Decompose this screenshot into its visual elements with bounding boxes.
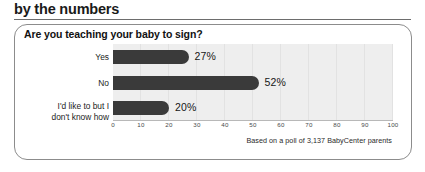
bar-value-label: 52% bbox=[265, 76, 286, 88]
x-tick-label: 20 bbox=[165, 121, 172, 128]
x-tick-label: 70 bbox=[305, 121, 312, 128]
x-tick-label: 10 bbox=[137, 121, 144, 128]
bar bbox=[113, 50, 189, 64]
bar-chart: 0102030405060708090100 Yes27%No52%I'd li… bbox=[0, 0, 425, 172]
x-tick-label: 30 bbox=[193, 121, 200, 128]
gridline bbox=[364, 44, 365, 120]
category-label: Yes bbox=[9, 52, 109, 63]
bar-value-label: 20% bbox=[175, 101, 196, 113]
x-tick-label: 60 bbox=[277, 121, 284, 128]
category-label: No bbox=[9, 78, 109, 89]
x-tick-label: 80 bbox=[333, 121, 340, 128]
infographic-page: by the numbers Are you teaching your bab… bbox=[0, 0, 425, 172]
x-tick-label: 50 bbox=[249, 121, 256, 128]
bar bbox=[113, 101, 169, 115]
x-tick-label: 90 bbox=[361, 121, 368, 128]
gridline bbox=[392, 44, 393, 120]
x-tick-label: 0 bbox=[111, 121, 115, 128]
x-tick-label: 40 bbox=[221, 121, 228, 128]
bar-value-label: 27% bbox=[195, 50, 216, 62]
x-tick-label: 100 bbox=[388, 121, 399, 128]
bar bbox=[113, 76, 259, 90]
category-label: I'd like to but I don't know how bbox=[9, 101, 109, 122]
gridline bbox=[336, 44, 337, 120]
source-note: Based on a poll of 3,137 BabyCenter pare… bbox=[246, 136, 392, 145]
gridline bbox=[308, 44, 309, 120]
